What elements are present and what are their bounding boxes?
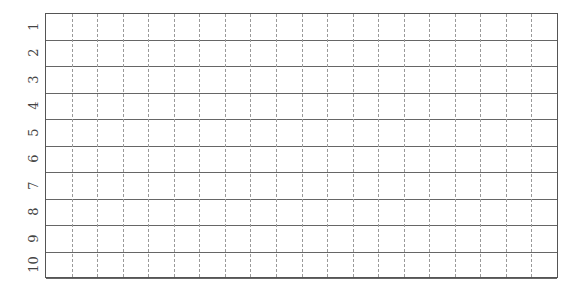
column-divider [506, 14, 507, 277]
column-divider [72, 14, 73, 277]
column-divider [404, 14, 405, 277]
row-label: 2 [24, 40, 42, 67]
row-label-text: 3 [26, 75, 41, 83]
column-divider [225, 14, 226, 277]
column-divider [531, 14, 532, 277]
row-label-text: 4 [26, 102, 41, 110]
column-divider [327, 14, 328, 277]
row-label-text: 7 [26, 181, 41, 189]
row-label-text: 10 [25, 256, 40, 273]
row-label-text: 2 [26, 49, 41, 57]
column-divider [480, 14, 481, 277]
column-divider [353, 14, 354, 277]
row-label: 9 [24, 225, 42, 252]
row-label: 10 [24, 252, 42, 279]
row-label-text: 9 [26, 234, 41, 242]
row-label: 5 [24, 119, 42, 146]
column-divider [123, 14, 124, 277]
column-divider [97, 14, 98, 277]
row-label: 4 [24, 93, 42, 120]
column-divider [250, 14, 251, 277]
column-divider [148, 14, 149, 277]
grid-sheet [45, 13, 558, 278]
row-label: 7 [24, 172, 42, 199]
column-divider [174, 14, 175, 277]
column-divider [378, 14, 379, 277]
column-divider [302, 14, 303, 277]
row-label-text: 6 [26, 155, 41, 163]
row-label: 3 [24, 66, 42, 93]
column-divider [276, 14, 277, 277]
column-divider [455, 14, 456, 277]
row-label-text: 8 [26, 208, 41, 216]
column-divider [429, 14, 430, 277]
row-label-text: 1 [26, 22, 41, 30]
row-label: 1 [24, 13, 42, 40]
row-label: 6 [24, 146, 42, 173]
row-label-text: 5 [26, 128, 41, 136]
column-divider [199, 14, 200, 277]
row-label: 8 [24, 199, 42, 226]
